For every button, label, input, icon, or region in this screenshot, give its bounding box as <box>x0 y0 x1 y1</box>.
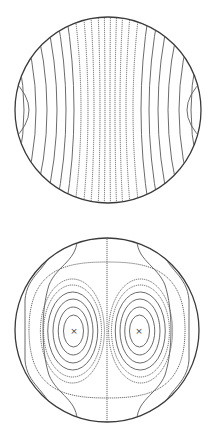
top-panel <box>4 12 211 208</box>
contour-line <box>115 12 117 208</box>
contour-line <box>98 12 100 208</box>
right-vortex-center-marker: × <box>135 326 143 336</box>
contour-line <box>56 12 66 208</box>
contour-line <box>66 12 74 208</box>
bottom-contour-lines <box>25 235 189 425</box>
contour-line <box>4 12 24 208</box>
contour-line <box>91 12 94 208</box>
contour-line <box>126 12 130 208</box>
contour-line <box>75 12 81 208</box>
contour-line <box>120 12 123 208</box>
contour-line <box>141 12 149 208</box>
contour-line <box>83 12 88 208</box>
contour-line <box>19 12 36 208</box>
figure-canvas: × × <box>0 0 217 445</box>
contour-line <box>104 12 105 208</box>
top-contour-lines <box>4 12 211 208</box>
contour-line <box>133 12 139 208</box>
edge-contour <box>163 250 189 410</box>
top-circle-boundary <box>15 17 201 203</box>
left-vortex-center-marker: × <box>70 326 78 336</box>
contour-line <box>149 12 159 208</box>
bottom-panel: × × <box>15 235 199 425</box>
